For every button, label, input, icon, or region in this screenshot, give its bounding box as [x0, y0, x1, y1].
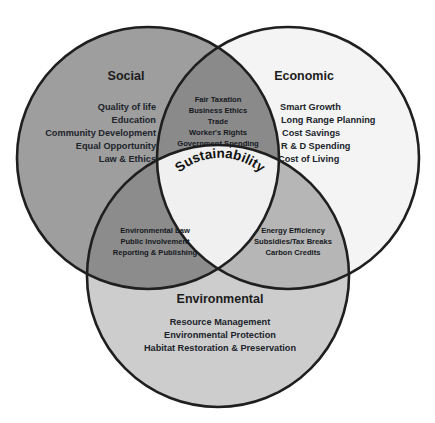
environmental-title: Environmental: [177, 292, 264, 306]
social-title: Social: [108, 69, 145, 83]
economic-item: Long Range Planning: [281, 115, 375, 125]
overlap-item: Reporting & Publishing: [113, 248, 198, 257]
social-item: Quality of life: [98, 102, 156, 112]
overlap-item: Public Involvement: [120, 237, 190, 246]
overlap-item: Fair Taxation: [195, 95, 242, 104]
social-item: Community Development: [45, 128, 156, 138]
social-item: Education: [112, 115, 157, 125]
economic-item: Smart Growth: [280, 102, 341, 112]
venn-canvas: Social Quality of life Education Communi…: [0, 0, 435, 423]
environmental-item: Environmental Protection: [164, 330, 276, 340]
economic-item: R & D Spending: [281, 141, 350, 151]
overlap-item: Environmental Law: [120, 226, 190, 235]
overlap-item: Trade: [208, 117, 228, 126]
social-item: Law & Ethics: [99, 154, 156, 164]
overlap-social-environmental-items: Environmental Law Public Involvement Rep…: [113, 226, 198, 257]
overlap-item: Subsidies/Tax Breaks: [254, 237, 332, 246]
overlap-item: Carbon Credits: [266, 248, 321, 257]
overlap-item: Worker's Rights: [189, 128, 247, 137]
overlap-economic-environmental-items: Energy Efficiency Subsidies/Tax Breaks C…: [254, 226, 332, 257]
overlap-item: Energy Efficiency: [261, 226, 326, 235]
social-item: Equal Opportunity: [76, 141, 157, 151]
economic-title: Economic: [274, 69, 334, 83]
environmental-item: Resource Management: [170, 317, 271, 327]
economic-item: Cost of Living: [278, 154, 339, 164]
economic-item: Cost Savings: [282, 128, 340, 138]
sustainability-venn-diagram: Social Quality of life Education Communi…: [0, 0, 435, 423]
environmental-item: Habitat Restoration & Preservation: [144, 343, 297, 353]
overlap-item: Business Ethics: [189, 106, 248, 115]
